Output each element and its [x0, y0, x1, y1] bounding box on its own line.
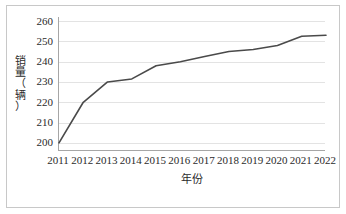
x-axis-tick-labels: 2011201220132014201520162017201820192020… [58, 155, 325, 171]
x-tick-label: 2017 [193, 155, 215, 166]
x-tick-label: 2013 [96, 155, 118, 166]
x-tick-label: 2011 [47, 155, 69, 166]
x-tick-label: 2018 [217, 155, 239, 166]
x-tick-label: 2014 [120, 155, 142, 166]
x-tick-label: 2022 [314, 155, 336, 166]
y-tick-label: 210 [37, 117, 54, 128]
chart-figure: 200210220230240250260 201120122013201420… [0, 0, 346, 214]
x-tick-label: 2015 [144, 155, 166, 166]
x-tick-label: 2016 [168, 155, 190, 166]
y-tick-label: 200 [37, 137, 54, 148]
plot-area [58, 17, 325, 151]
y-tick-label: 240 [37, 56, 54, 67]
x-tick-label: 2020 [265, 155, 287, 166]
y-tick-label: 220 [37, 97, 54, 108]
y-tick-label: 230 [37, 76, 54, 87]
line-series-svg [59, 17, 326, 151]
y-axis-title-char: （ [12, 78, 28, 89]
y-tick-label: 260 [37, 16, 54, 27]
y-tick-label: 250 [37, 36, 54, 47]
x-tick-label: 2019 [241, 155, 263, 166]
x-tick-label: 2012 [71, 155, 93, 166]
y-axis-title: 销量（辆） [12, 56, 28, 112]
sales-line-series [59, 35, 326, 143]
x-axis-title: 年份 [58, 174, 325, 185]
x-tick-label: 2021 [290, 155, 312, 166]
y-axis-title-char: ） [12, 101, 28, 112]
